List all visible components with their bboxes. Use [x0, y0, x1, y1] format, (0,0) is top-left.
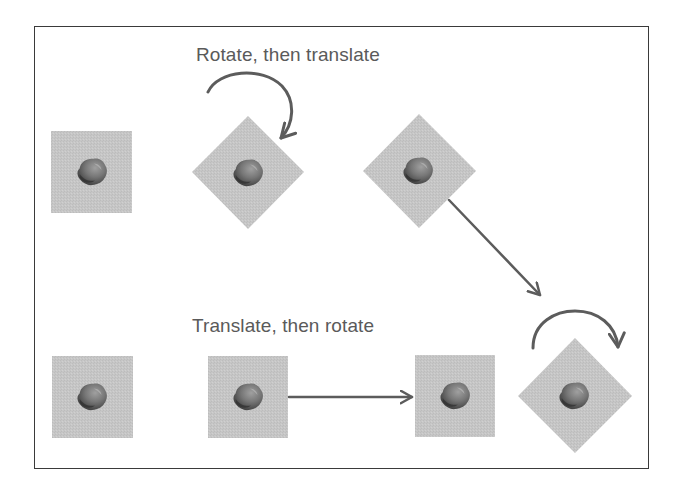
- top-rotated-tile: [192, 116, 304, 229]
- diagram-canvas: [0, 0, 680, 491]
- bottom-translated-rotated-tile: [518, 338, 632, 453]
- translate-arrow-diagonal: [449, 200, 540, 295]
- label-rotate-then-translate: Rotate, then translate: [196, 44, 380, 66]
- bottom-original-tile: [52, 356, 133, 438]
- bottom-copy-tile: [208, 356, 288, 438]
- label-translate-then-rotate: Translate, then rotate: [192, 315, 374, 337]
- bottom-translated-tile: [415, 355, 495, 437]
- top-original-tile: [51, 131, 132, 213]
